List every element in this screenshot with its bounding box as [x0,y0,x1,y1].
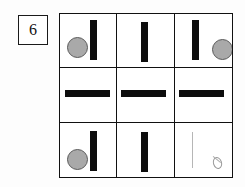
matrix-cell-row1-col3[interactable] [175,14,232,68]
matrix-grid [59,13,233,178]
vertical-bar-icon [192,20,199,60]
gray-circle-icon [67,37,88,58]
sketch-oval-icon [211,156,223,170]
figure-group [117,14,173,67]
horizontal-bar-icon [121,90,166,97]
matrix-cell-row3-col2[interactable] [117,123,174,177]
horizontal-bar-icon [65,90,110,97]
matrix-cell-row3-col1[interactable] [60,123,117,177]
figure-group [60,68,116,121]
figure-group [117,68,173,121]
vertical-bar-icon [141,22,148,62]
gray-circle-icon [67,149,88,170]
item-number-box: 6 [18,15,48,45]
item-number-label: 6 [29,22,37,38]
vertical-bar-icon [141,132,148,172]
matrix-cell-row3-col3-answer[interactable] [175,123,232,177]
matrix-cell-row2-col1[interactable] [60,68,117,122]
figure-group [60,14,116,67]
figure-group [60,123,116,177]
matrix-cell-row2-col2[interactable] [117,68,174,122]
figure-group [175,68,232,121]
figure-group [175,123,232,177]
figure-group [175,14,232,67]
sketch-line-icon [192,132,193,168]
vertical-bar-icon [90,131,97,171]
matrix-cell-row1-col2[interactable] [117,14,174,68]
matrix-cell-row2-col3[interactable] [175,68,232,122]
vertical-bar-icon [90,20,97,60]
horizontal-bar-icon [179,90,224,97]
gray-circle-icon [212,39,232,60]
matrix-cell-row1-col1[interactable] [60,14,117,68]
figure-group [117,123,173,177]
